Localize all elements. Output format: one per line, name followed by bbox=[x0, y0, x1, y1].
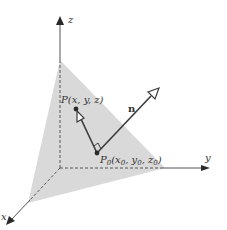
point-p bbox=[74, 107, 79, 112]
normal-vector-label: n bbox=[128, 103, 136, 114]
point-p0 bbox=[95, 151, 100, 156]
x-axis-label: x bbox=[1, 211, 7, 222]
y-axis-label: y bbox=[204, 152, 211, 163]
z-arrowhead-icon bbox=[56, 16, 64, 25]
plane bbox=[28, 60, 165, 203]
point-p-label: P(x, y, z) bbox=[60, 94, 104, 105]
plane-normal-diagram: z y x P(x, y, z) n P0(x0, y0, z0) bbox=[0, 0, 227, 230]
y-arrowhead-icon bbox=[201, 165, 210, 171]
z-axis-label: z bbox=[67, 14, 74, 25]
